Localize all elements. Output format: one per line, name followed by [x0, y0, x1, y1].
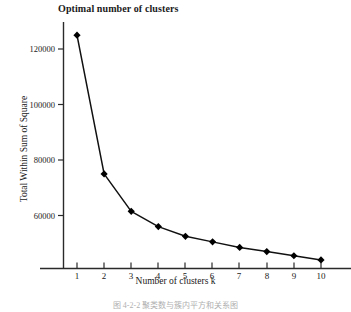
y-axis-ticks — [58, 49, 64, 216]
data-point-k-7 — [236, 244, 243, 251]
y-tick-label-100000: 100000 — [30, 100, 56, 110]
series-line-total-within-sum-of-square — [77, 35, 321, 260]
data-point-k-1 — [73, 32, 80, 39]
y-axis-tick-labels: 120000 100000 80000 60000 — [30, 44, 56, 221]
y-tick-label-80000: 80000 — [34, 155, 55, 165]
y-axis-title: Total Within Sum of Square — [19, 69, 29, 229]
y-tick-label-60000: 60000 — [34, 211, 55, 221]
chart-figure: Optimal number of clusters 120000 100000… — [0, 0, 351, 312]
figure-caption: 图 4-2-2 聚类数与簇内平方和关系图 — [0, 299, 351, 310]
data-point-k-5 — [182, 233, 189, 240]
data-point-k-6 — [209, 238, 216, 245]
y-tick-label-120000: 120000 — [30, 44, 56, 54]
x-axis-ticks — [77, 263, 321, 269]
data-point-k-9 — [290, 252, 297, 259]
data-point-k-8 — [263, 248, 270, 255]
data-point-k-10 — [317, 256, 324, 263]
series-markers — [73, 32, 324, 264]
chart-plot-area: 120000 100000 80000 60000 1 2 3 4 5 6 — [0, 0, 351, 312]
data-point-k-4 — [155, 223, 162, 230]
x-axis-title: Number of clusters k — [0, 276, 351, 286]
